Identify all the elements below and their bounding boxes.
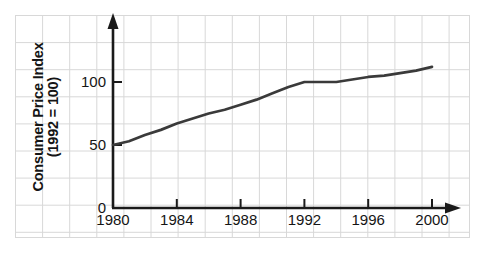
y-axis-title: Consumer Price Index (1992 = 100) [30, 22, 62, 212]
chart-figure: Consumer Price Index (1992 = 100) 050100… [0, 0, 486, 255]
x-axis-tick-label: 1992 [269, 211, 339, 228]
y-axis-tick-label: 100 [58, 73, 106, 90]
x-axis-tick-label: 1984 [142, 211, 212, 228]
x-axis-tick-label: 1988 [206, 211, 276, 228]
y-axis-title-line1: Consumer Price Index [31, 42, 46, 191]
x-axis-tick-label: 1980 [78, 211, 148, 228]
y-axis-tick-label: 50 [58, 136, 106, 153]
cpi-line-series [113, 67, 432, 145]
x-axis-tick-label: 2000 [397, 211, 467, 228]
x-axis-tick-label: 1996 [333, 211, 403, 228]
